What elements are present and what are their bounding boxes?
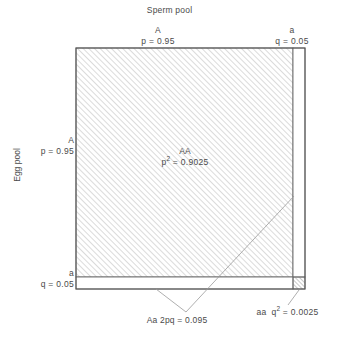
genotype-aa-name: aa (256, 307, 266, 317)
genotype-label-aa: aa q2 = 0.0025 (236, 307, 339, 318)
sperm-allele-A-frequency: p = 0.95 (128, 36, 188, 47)
sperm-allele-a-symbol: a (262, 25, 322, 36)
genotype-aa-term-exponent: 2 (276, 305, 280, 312)
egg-allele-a-group: a q = 0.05 (18, 268, 74, 290)
genotype-aa-value: = 0.0025 (283, 307, 319, 317)
sperm-allele-a-group: a q = 0.05 (262, 25, 322, 47)
genotype-cell-Aa-horizontal (76, 277, 293, 289)
egg-allele-A-frequency: p = 0.95 (18, 146, 74, 157)
figure-canvas: Sperm pool Egg pool A p = 0.95 a q = 0.0… (0, 0, 339, 344)
sperm-allele-A-symbol: A (128, 25, 188, 36)
sperm-allele-A-group: A p = 0.95 (128, 25, 188, 47)
egg-allele-a-frequency: q = 0.05 (18, 279, 74, 290)
sperm-pool-axis-title: Sperm pool (0, 5, 339, 16)
sperm-allele-a-frequency: q = 0.05 (262, 36, 322, 47)
genotype-cell-Aa-vertical (293, 48, 305, 277)
genotype-label-AA: AA p2 = 0.9025 (140, 146, 230, 168)
genotype-cell-aa (293, 277, 305, 289)
egg-allele-a-symbol: a (18, 268, 74, 279)
punnett-square-diagram (0, 0, 339, 344)
genotype-AA-value: = 0.9025 (173, 157, 209, 167)
leader-line-Aa-bottom (156, 289, 186, 312)
genotype-AA-name: AA (140, 146, 230, 157)
leader-line-aa (288, 290, 299, 305)
genotype-AA-expression: p2 = 0.9025 (140, 157, 230, 168)
genotype-label-Aa: Aa 2pq = 0.095 (112, 315, 242, 326)
egg-allele-A-group: A p = 0.95 (18, 135, 74, 157)
egg-allele-A-symbol: A (18, 135, 74, 146)
genotype-AA-term-exponent: 2 (166, 155, 170, 162)
